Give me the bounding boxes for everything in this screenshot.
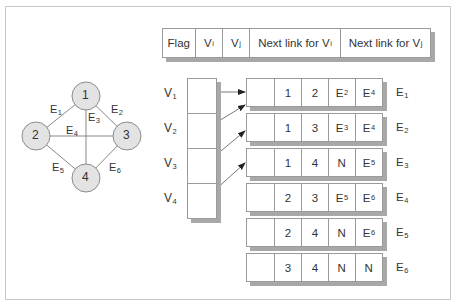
node-label: 4 xyxy=(82,170,89,184)
record-label: E1 xyxy=(396,86,408,100)
record-next-vj: E4 xyxy=(356,79,382,106)
record-next-vi: N xyxy=(329,149,356,176)
header-field-next-vi: Next link for Vi xyxy=(250,29,341,57)
record-flag xyxy=(247,219,275,246)
edge-label-e1: E1 xyxy=(50,103,62,117)
edge-record: 1 2 E2 E4 xyxy=(246,78,383,107)
edge-record: 2 3 E5 E6 xyxy=(246,183,383,212)
edge-label-e6: E6 xyxy=(109,161,121,175)
header-field-vj: Vj xyxy=(223,29,250,57)
record-vi: 1 xyxy=(275,149,302,176)
record-label: E6 xyxy=(396,261,408,275)
edge-record: 1 3 E3 E4 xyxy=(246,113,383,142)
record-vi: 1 xyxy=(275,114,302,141)
record-flag xyxy=(247,254,275,281)
node-label: 2 xyxy=(32,128,39,142)
vertex-list xyxy=(187,78,217,219)
record-vj: 4 xyxy=(302,149,329,176)
record-next-vj: E6 xyxy=(356,219,382,246)
edge-label-e5: E5 xyxy=(52,161,64,175)
record-vi: 1 xyxy=(275,79,302,106)
edge-record: 3 4 N N xyxy=(246,253,383,282)
record-next-vj: E6 xyxy=(356,184,382,211)
record-next-vi: E5 xyxy=(329,184,356,211)
record-flag xyxy=(247,114,275,141)
record-vi: 2 xyxy=(275,184,302,211)
vertex-cell xyxy=(188,184,216,218)
header-field-flag: Flag xyxy=(163,29,196,57)
record-next-vi: E2 xyxy=(329,79,356,106)
record-label: E4 xyxy=(396,191,408,205)
record-vj: 3 xyxy=(302,184,329,211)
vertex-label: V2 xyxy=(164,121,177,136)
header-field-vi: Vi xyxy=(196,29,223,57)
edge-label-e4: E4 xyxy=(66,124,78,138)
record-vi: 3 xyxy=(275,254,302,281)
header-field-next-vj: Next link for Vj xyxy=(341,29,430,57)
record-next-vi: E3 xyxy=(329,114,356,141)
record-label: E2 xyxy=(396,121,408,135)
record-label: E5 xyxy=(396,226,408,240)
node-label: 1 xyxy=(82,88,89,102)
node-label: 3 xyxy=(123,128,130,142)
vertex-label: V1 xyxy=(164,86,177,101)
vertex-cell xyxy=(188,79,216,114)
vertex-label: V3 xyxy=(164,156,177,171)
record-flag xyxy=(247,184,275,211)
record-vj: 4 xyxy=(302,219,329,246)
record-vj: 2 xyxy=(302,79,329,106)
edge-node-structure-header: Flag Vi Vj Next link for Vi Next link fo… xyxy=(162,28,431,58)
record-next-vj: E4 xyxy=(356,114,382,141)
vertex-cell xyxy=(188,114,216,149)
edge-record: 1 4 N E5 xyxy=(246,148,383,177)
record-flag xyxy=(247,149,275,176)
record-label: E3 xyxy=(396,156,408,170)
edge-label-e3: E3 xyxy=(88,111,100,125)
record-next-vi: N xyxy=(329,254,356,281)
record-vj: 4 xyxy=(302,254,329,281)
edge-record: 2 4 N E6 xyxy=(246,218,383,247)
record-next-vj: E5 xyxy=(356,149,382,176)
vertex-label: V4 xyxy=(164,191,177,206)
record-next-vj: N xyxy=(356,254,382,281)
vertex-cell xyxy=(188,149,216,184)
record-vj: 3 xyxy=(302,114,329,141)
record-flag xyxy=(247,79,275,106)
edge-label-e2: E2 xyxy=(111,103,123,117)
record-next-vi: N xyxy=(329,219,356,246)
record-vi: 2 xyxy=(275,219,302,246)
